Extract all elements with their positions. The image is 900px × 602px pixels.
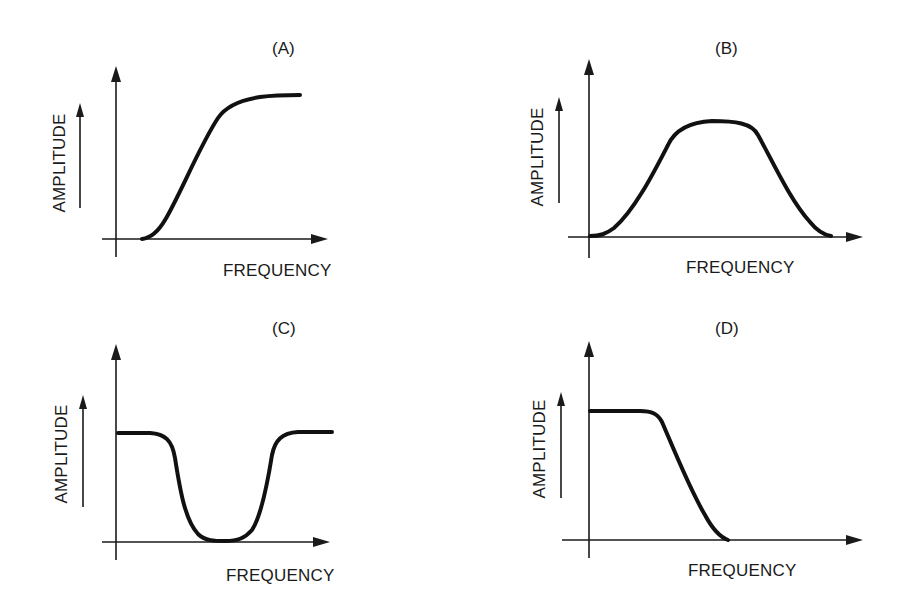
x-axis-title: FREQUENCY [688, 561, 797, 580]
panel-c: (C)AMPLITUDEFREQUENCY [52, 319, 335, 585]
response-curve-band-stop [118, 432, 332, 541]
up-arrow-icon [76, 103, 84, 117]
panel-label: (C) [272, 319, 296, 338]
up-arrow-icon [79, 395, 87, 409]
panel-d: (D)AMPLITUDEFREQUENCY [530, 319, 863, 580]
y-axis-title: AMPLITUDE [530, 399, 549, 498]
x-axis-arrow-icon [846, 232, 863, 242]
y-axis-title: AMPLITUDE [50, 113, 69, 212]
y-axis-arrow-icon [111, 66, 121, 82]
y-axis-title: AMPLITUDE [52, 404, 71, 503]
panel-b: (B)AMPLITUDEFREQUENCY [528, 39, 863, 277]
panel-label: (D) [715, 319, 739, 338]
up-arrow-icon [555, 97, 563, 111]
y-axis-arrow-icon [584, 341, 594, 357]
panel-label: (A) [272, 39, 295, 58]
panel-label: (B) [715, 39, 738, 58]
x-axis-arrow-icon [311, 234, 328, 244]
response-curve-high-pass [142, 95, 300, 239]
x-axis-arrow-icon [846, 535, 863, 545]
y-axis-arrow-icon [584, 59, 594, 75]
x-axis-title: FREQUENCY [223, 261, 332, 280]
panel-a: (A)AMPLITUDEFREQUENCY [50, 39, 332, 280]
x-axis-title: FREQUENCY [686, 258, 795, 277]
y-axis-title: AMPLITUDE [528, 107, 547, 206]
response-curve-band-pass [590, 121, 831, 236]
x-axis-arrow-icon [313, 537, 330, 547]
response-curve-low-pass [590, 411, 728, 540]
filter-response-figure: (A)AMPLITUDEFREQUENCY(B)AMPLITUDEFREQUEN… [0, 0, 900, 602]
up-arrow-icon [557, 392, 565, 406]
y-axis-arrow-icon [111, 344, 121, 360]
x-axis-title: FREQUENCY [226, 566, 335, 585]
